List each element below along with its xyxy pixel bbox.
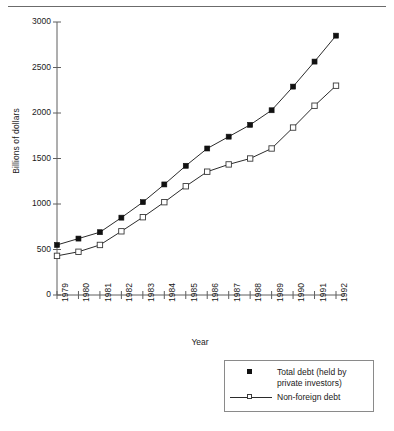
legend-label-non-foreign-debt: Non-foreign debt — [277, 392, 340, 403]
x-axis-tick-label: 1991 — [319, 283, 328, 302]
data-point — [183, 163, 188, 168]
y-axis-tick-label: 3000 — [17, 17, 51, 26]
data-point — [97, 230, 102, 235]
legend-label-total-debt: Total debt (held by private investors) — [277, 367, 373, 389]
data-point — [205, 146, 210, 151]
data-point — [97, 242, 102, 247]
y-axis-tick-label: 500 — [17, 245, 51, 254]
data-point — [312, 59, 317, 64]
data-point — [248, 122, 253, 127]
y-axis-title: Billions of dollars — [11, 81, 21, 201]
x-axis-tick-label: 1986 — [211, 283, 220, 302]
plot-area: Billions of dollars 05001000150020002500… — [0, 0, 394, 345]
data-point — [333, 83, 338, 88]
data-point — [290, 125, 295, 130]
chart-legend: Total debt (held by private investors) N… — [224, 360, 374, 412]
data-point — [183, 184, 188, 189]
x-axis-tick-label: 1984 — [168, 283, 177, 302]
data-point — [291, 84, 296, 89]
x-axis-tick-label: 1985 — [190, 283, 199, 302]
x-axis-title: Year — [40, 337, 360, 347]
x-axis-tick-label: 1980 — [82, 283, 91, 302]
legend-item-total-debt: Total debt (held by private investors) — [225, 367, 375, 389]
data-point — [54, 253, 59, 258]
data-point — [334, 33, 339, 38]
data-point — [76, 249, 81, 254]
x-axis-tick-label: 1983 — [147, 283, 156, 302]
data-point — [55, 242, 60, 247]
data-point — [247, 156, 252, 161]
figure: Billions of dollars 05001000150020002500… — [0, 0, 394, 431]
y-axis-tick-label: 2500 — [17, 63, 51, 72]
data-point — [205, 169, 210, 174]
x-axis-tick-label: 1981 — [104, 283, 113, 302]
open-square-line-icon — [225, 392, 277, 403]
x-axis-tick-label: 1982 — [125, 283, 134, 302]
data-point — [162, 182, 167, 187]
x-axis-tick-label: 1988 — [254, 283, 263, 302]
data-point — [76, 236, 81, 241]
data-point — [226, 162, 231, 167]
series-line-0 — [57, 36, 336, 245]
y-axis-tick-label: 1500 — [17, 154, 51, 163]
data-point — [226, 134, 231, 139]
data-point — [162, 199, 167, 204]
data-point — [269, 108, 274, 113]
data-point — [140, 215, 145, 220]
data-point — [140, 200, 145, 205]
x-axis-tick-label: 1979 — [61, 283, 70, 302]
y-axis-tick-label: 0 — [17, 290, 51, 299]
x-axis-tick-label: 1989 — [276, 283, 285, 302]
y-axis-tick-label: 2000 — [17, 108, 51, 117]
data-point — [312, 103, 317, 108]
data-point — [269, 146, 274, 151]
y-axis-tick-label: 1000 — [17, 199, 51, 208]
x-axis-tick-label: 1987 — [233, 283, 242, 302]
data-point — [119, 215, 124, 220]
data-point — [119, 229, 124, 234]
x-axis-tick-label: 1990 — [297, 283, 306, 302]
filled-square-icon — [225, 367, 277, 378]
x-axis-tick-label: 1992 — [340, 283, 349, 302]
legend-item-non-foreign-debt: Non-foreign debt — [225, 392, 375, 403]
